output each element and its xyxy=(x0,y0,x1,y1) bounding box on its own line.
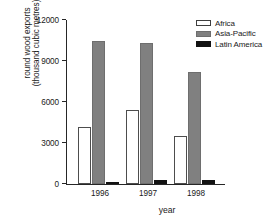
y-axis-line xyxy=(66,20,67,185)
legend-swatch-asiapacific-icon xyxy=(196,31,211,37)
y-axis-tick: 6000 xyxy=(62,101,66,102)
chart-legend: AfricaAsia-PacificLatin America xyxy=(196,19,262,48)
bar-asiapacific-1997[interactable] xyxy=(140,43,153,184)
x-axis-tick-label-1998: 1998 xyxy=(169,189,223,198)
y-axis-tick: 9000 xyxy=(62,60,66,61)
bar-latinamerica-1997[interactable] xyxy=(154,180,167,184)
y-axis-tick-label: 6000 xyxy=(41,97,59,106)
y-axis-tick: 0 xyxy=(62,183,66,184)
bar-asiapacific-1996[interactable] xyxy=(92,41,105,184)
legend-item-asiapacific[interactable]: Asia-Pacific xyxy=(196,30,262,38)
y-axis-tick: 12000 xyxy=(62,19,66,20)
bar-africa-1998[interactable] xyxy=(174,136,187,184)
bar-latinamerica-1996[interactable] xyxy=(106,182,119,184)
legend-swatch-africa-icon xyxy=(196,20,211,26)
bar-chart: round wood exports (thousand cubic metre… xyxy=(0,0,276,223)
y-axis-tick-label: 0 xyxy=(55,179,59,188)
bar-group-1997 xyxy=(126,20,170,184)
bar-latinamerica-1998[interactable] xyxy=(202,180,215,184)
legend-label-africa: Africa xyxy=(215,19,235,28)
x-axis-title-text: year xyxy=(159,205,176,215)
x-axis-tick-label-1997: 1997 xyxy=(121,189,175,198)
x-axis-title: year xyxy=(0,205,276,215)
legend-label-asiapacific: Asia-Pacific xyxy=(215,29,256,38)
y-axis-tick: 3000 xyxy=(62,142,66,143)
bar-group-1996 xyxy=(78,20,122,184)
legend-swatch-latinamerica-icon xyxy=(196,41,211,47)
y-axis-title-line-1: round wood exports xyxy=(23,8,33,79)
y-axis-title-line-2: (thousand cubic metres) xyxy=(32,0,42,86)
y-axis-tick-label: 9000 xyxy=(41,56,59,65)
y-axis-tick-label: 3000 xyxy=(41,138,59,147)
y-axis-tick-label: 12000 xyxy=(37,15,59,24)
legend-item-africa[interactable]: Africa xyxy=(196,19,262,27)
bar-africa-1997[interactable] xyxy=(126,110,139,184)
bar-africa-1996[interactable] xyxy=(78,127,91,184)
legend-label-latinamerica: Latin America xyxy=(215,40,262,49)
bar-asiapacific-1998[interactable] xyxy=(188,72,201,184)
x-axis-line xyxy=(66,184,225,185)
x-axis-tick-label-1996: 1996 xyxy=(73,189,127,198)
legend-item-latinamerica[interactable]: Latin America xyxy=(196,40,262,48)
